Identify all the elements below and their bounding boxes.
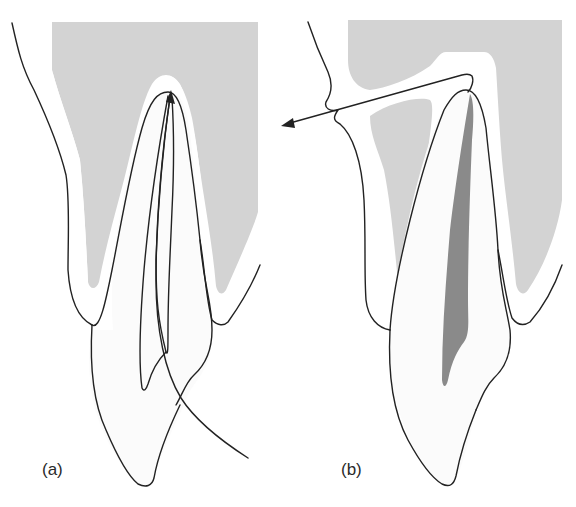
tooth-diagram-figure: [0, 0, 576, 507]
panel-b-arrowhead-icon: [281, 118, 295, 128]
panel-a-label: (a): [42, 460, 63, 480]
panel-b-label: (b): [341, 460, 362, 480]
panel-a: [12, 22, 260, 486]
panel-b: [281, 20, 562, 486]
